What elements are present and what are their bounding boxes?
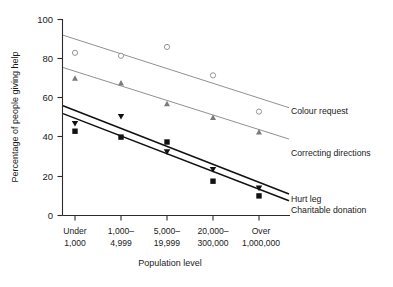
chart-svg: 100 80 60 40 20 0 Percentage of people g… [0, 0, 393, 287]
data-point-colour-request-2 [118, 53, 123, 58]
x-tick-label-3-line2: 19,999 [154, 238, 181, 248]
chart-figure: 100 80 60 40 20 0 Percentage of people g… [0, 0, 393, 287]
data-point-charitable-donation-1 [72, 129, 77, 134]
y-tick-label-0: 0 [48, 210, 53, 221]
y-tick-label-40: 40 [42, 131, 53, 142]
y-tick-label-60: 60 [42, 92, 53, 103]
x-tick-label-1-line2: 1,000 [64, 238, 86, 248]
y-tick-label-20: 20 [42, 171, 53, 182]
x-tick-label-5-line2: 1,000,000 [242, 238, 280, 248]
series-label-charitable-donation: Charitable donation [291, 205, 367, 215]
data-point-charitable-donation-3 [164, 139, 169, 144]
series-label-correcting-directions: Correcting directions [291, 148, 371, 158]
data-point-charitable-donation-4 [210, 179, 215, 184]
x-tick-label-2-line2: 4,999 [110, 238, 132, 248]
series-label-colour-request: Colour request [291, 106, 349, 116]
y-tick-label-100: 100 [37, 14, 53, 25]
x-tick-label-4-line2: 300,000 [197, 238, 228, 248]
x-tick-label-3-line1: 5,000– [154, 226, 181, 236]
x-tick-label-4-line1: 20,000– [197, 226, 228, 236]
data-point-charitable-donation-5 [256, 193, 261, 198]
data-point-colour-request-1 [72, 50, 77, 55]
series-label-hurt-leg: Hurt leg [291, 194, 322, 204]
data-point-charitable-donation-2 [118, 134, 123, 139]
data-point-colour-request-5 [256, 109, 261, 114]
y-tick-label-80: 80 [42, 53, 53, 64]
data-point-colour-request-3 [164, 44, 169, 49]
x-tick-label-5-line1: Over [252, 226, 271, 236]
y-axis-title: Percentage of people giving help [10, 51, 20, 182]
x-tick-label-2-line1: 1,000– [108, 226, 135, 236]
data-point-colour-request-4 [210, 73, 215, 78]
x-tick-label-1-line1: Under [63, 226, 87, 236]
x-axis-title: Population level [138, 258, 202, 268]
